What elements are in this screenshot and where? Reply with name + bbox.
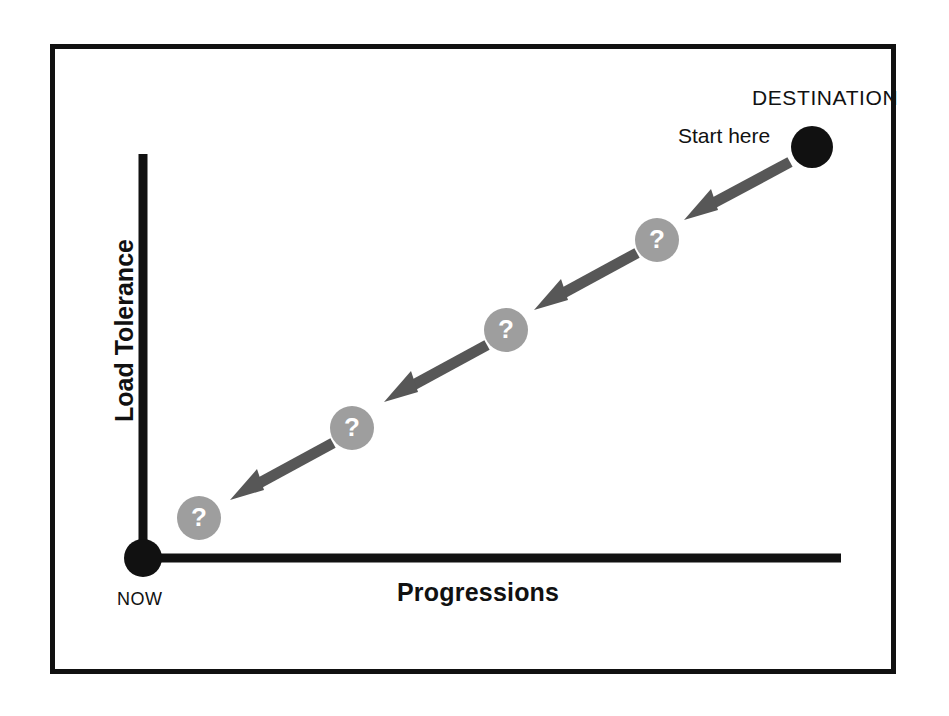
origin-now-label: NOW: [117, 589, 163, 610]
unknown-step-glyph-3: ?: [498, 314, 514, 344]
origin-now-dot: [124, 539, 162, 577]
unknown-step-glyph-1: ?: [191, 502, 207, 532]
x-axis-label: Progressions: [397, 578, 559, 607]
unknown-step-1: ?: [177, 496, 221, 540]
unknown-step-3: ?: [484, 308, 528, 352]
destination-label: DESTINATION: [752, 86, 898, 110]
unknown-step-glyph-4: ?: [649, 224, 665, 254]
arrow-segment-3: [534, 253, 637, 310]
diagram-canvas: ? ? ? ? DESTINATION Start here NOW Progr…: [0, 0, 949, 716]
y-axis-label: Load Tolerance: [110, 206, 139, 456]
unknown-step-4: ?: [635, 218, 679, 262]
start-here-label: Start here: [678, 124, 770, 148]
unknown-step-glyph-2: ?: [344, 412, 360, 442]
destination-dot: [791, 126, 833, 168]
arrow-segment-1: [230, 443, 333, 500]
arrow-segment-4: [684, 162, 790, 220]
arrow-segment-2: [384, 345, 487, 402]
unknown-step-2: ?: [330, 406, 374, 450]
